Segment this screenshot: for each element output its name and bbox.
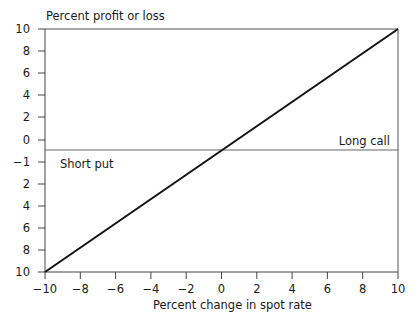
x-tick-label: 2 bbox=[253, 282, 260, 296]
long-call-label: Long call bbox=[339, 134, 390, 148]
y-tick-label: 6 bbox=[23, 221, 30, 235]
y-tick-label: 8 bbox=[23, 44, 30, 58]
x-tick-label: −2 bbox=[178, 282, 195, 296]
x-tick-label: 10 bbox=[391, 282, 406, 296]
y-tick-label: 10 bbox=[15, 22, 30, 36]
y-tick-label: 4 bbox=[23, 88, 30, 102]
x-tick-label: 4 bbox=[288, 282, 295, 296]
x-tick-label: −6 bbox=[107, 282, 124, 296]
x-ticks bbox=[45, 272, 398, 279]
y-tick-label: 6 bbox=[23, 66, 30, 80]
y-tick-label: 2 bbox=[23, 177, 30, 191]
short-put-label: Short put bbox=[60, 157, 114, 171]
y-tick-label: 8 bbox=[23, 243, 30, 257]
x-tick-label: 8 bbox=[359, 282, 366, 296]
x-tick-labels: −10 −8 −6 −4 −2 0 2 4 6 8 10 bbox=[33, 282, 405, 296]
y-tick-labels: 10 8 6 4 2 0 −1 2 4 6 8 10 bbox=[13, 22, 30, 279]
y-tick-label: 10 bbox=[15, 265, 30, 279]
y-tick-label: 0 bbox=[23, 133, 30, 147]
x-tick-label: 6 bbox=[324, 282, 331, 296]
y-tick-label: 4 bbox=[23, 199, 30, 213]
x-tick-label: 0 bbox=[218, 282, 225, 296]
x-tick-label: −4 bbox=[142, 282, 159, 296]
x-tick-label: −8 bbox=[72, 282, 89, 296]
x-tick-label: −10 bbox=[33, 282, 57, 296]
y-ticks bbox=[38, 29, 45, 272]
x-axis-title: Percent change in spot rate bbox=[153, 298, 312, 312]
y-tick-label: −1 bbox=[13, 155, 30, 169]
chart: 10 8 6 4 2 0 −1 2 4 6 8 10 −10 −8 −6 −4 … bbox=[0, 0, 418, 324]
y-axis-title: Percent profit or loss bbox=[46, 9, 165, 23]
y-tick-label: 2 bbox=[23, 110, 30, 124]
